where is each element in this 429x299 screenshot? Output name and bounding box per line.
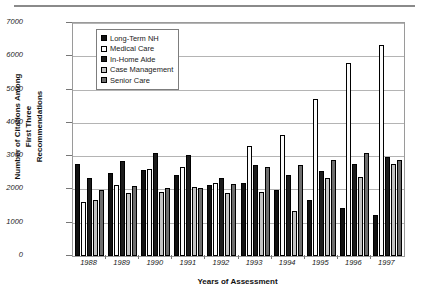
legend-swatch-icon — [101, 35, 107, 41]
bar — [207, 185, 212, 256]
bar — [397, 160, 402, 256]
x-axis-tick-label: 1993 — [234, 258, 274, 267]
x-axis-title: Years of Assessment — [72, 277, 403, 286]
bar — [159, 192, 164, 256]
legend-item: Senior Care — [101, 75, 173, 86]
bar — [319, 171, 324, 256]
bar — [120, 161, 125, 256]
legend-item-label: Medical Care — [110, 44, 154, 53]
bar — [379, 45, 384, 256]
bar — [247, 146, 252, 256]
bar — [231, 184, 236, 256]
bar — [198, 188, 203, 256]
bar-group — [371, 23, 404, 256]
bar — [153, 153, 158, 256]
bar — [391, 164, 396, 256]
bar-group — [305, 23, 338, 256]
bar — [141, 170, 146, 256]
bar — [174, 175, 179, 256]
bar — [114, 185, 119, 256]
bar — [87, 178, 92, 256]
bar — [280, 135, 285, 256]
legend-item-label: Senior Care — [110, 76, 150, 85]
bar — [81, 202, 86, 256]
bar — [108, 173, 113, 256]
y-axis-title-line: Recommendations — [34, 37, 45, 217]
bar — [307, 200, 312, 256]
x-axis-tick-label: 1995 — [300, 258, 340, 267]
bar — [385, 157, 390, 256]
bar — [93, 200, 98, 256]
bar — [358, 177, 363, 256]
x-axis-tick-label: 1991 — [168, 258, 208, 267]
y-axis-tick-label: 7000 — [0, 17, 23, 26]
bar — [132, 186, 137, 256]
bar — [313, 99, 318, 256]
chart-legend: Long-Term NHMedical CareIn-Home AideCase… — [96, 29, 179, 90]
bar — [225, 193, 230, 256]
y-axis-title-line: Number of Citations Among — [12, 37, 23, 217]
legend-item: Long-Term NH — [101, 33, 173, 44]
bar — [364, 153, 369, 256]
x-axis-tick-label: 1989 — [102, 258, 142, 267]
x-axis-tick-label: 1994 — [267, 258, 307, 267]
bar — [180, 167, 185, 256]
bar — [340, 208, 345, 256]
bar-group — [338, 23, 371, 256]
bar — [346, 63, 351, 256]
x-axis-tick-label: 1992 — [201, 258, 241, 267]
bar-group — [205, 23, 238, 256]
bar — [286, 175, 291, 256]
legend-swatch-icon — [101, 46, 107, 52]
bar — [126, 193, 131, 256]
legend-swatch-icon — [101, 56, 107, 62]
legend-item: In-Home Aide — [101, 54, 173, 65]
bar — [265, 167, 270, 256]
bar — [352, 164, 357, 256]
bar — [165, 188, 170, 256]
bar — [192, 187, 197, 256]
legend-item-label: Long-Term NH — [110, 34, 159, 43]
bar — [241, 183, 246, 256]
y-axis-title-line: First Three — [23, 37, 34, 217]
bar — [373, 215, 378, 256]
x-axis-tick-label: 1990 — [135, 258, 175, 267]
x-axis-tick-label: 1997 — [366, 258, 406, 267]
legend-item: Medical Care — [101, 44, 173, 55]
y-axis-tick-label: 0 — [0, 250, 23, 259]
top-divider-rule — [14, 5, 415, 7]
bar — [292, 211, 297, 256]
bar — [186, 155, 191, 256]
legend-item-label: In-Home Aide — [110, 55, 155, 64]
bar — [325, 178, 330, 256]
x-axis-tick-label: 1988 — [69, 258, 109, 267]
legend-swatch-icon — [101, 77, 107, 83]
bar — [298, 165, 303, 256]
bar — [213, 183, 218, 256]
bar — [259, 192, 264, 256]
y-axis-tick-label: 1000 — [0, 217, 23, 226]
bar — [75, 164, 80, 256]
legend-swatch-icon — [101, 67, 107, 73]
legend-item: Case Management — [101, 65, 173, 76]
legend-item-label: Case Management — [110, 65, 173, 74]
bar — [219, 178, 224, 256]
chart-page: 0100020003000400050006000700019881989199… — [0, 0, 429, 299]
bar — [99, 190, 104, 256]
bar — [147, 169, 152, 256]
x-axis-tick-label: 1996 — [333, 258, 373, 267]
bar — [253, 165, 258, 256]
bar — [331, 160, 336, 256]
y-axis-title: Number of Citations AmongFirst ThreeReco… — [12, 37, 45, 217]
bar — [274, 190, 279, 256]
bar-group — [272, 23, 305, 256]
bar-group — [238, 23, 271, 256]
